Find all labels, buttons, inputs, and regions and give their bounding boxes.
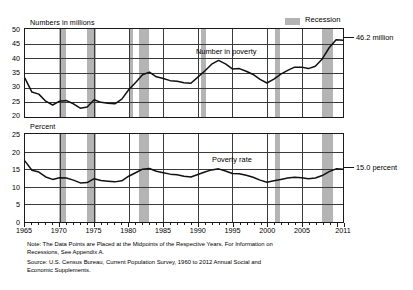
x-axis-tick (205, 223, 206, 225)
xtick-1995: 1995 (220, 226, 246, 235)
top-series-label: Number in poverty (196, 47, 256, 56)
bottom-series-label: Poverty rate (212, 155, 252, 164)
top-ytick-25: 25 (4, 97, 20, 106)
x-axis-tick (240, 223, 241, 225)
x-axis-tick (45, 223, 46, 225)
x-axis-tick (156, 223, 157, 225)
x-axis-tick (226, 223, 227, 225)
x-axis-tick (295, 223, 296, 225)
top-chart-axis-title: Numbers in millions (30, 18, 95, 27)
x-axis-tick (121, 223, 122, 225)
xtick-1985: 1985 (150, 226, 176, 235)
x-axis-tick (149, 223, 150, 225)
bottom-ytick-10: 10 (4, 183, 20, 192)
x-axis-tick (107, 223, 108, 225)
bottom-end-value-label: 15.0 percent (356, 163, 397, 172)
source-line-1: Source: U.S. Census Bureau, Current Popu… (27, 258, 261, 266)
top-callout-leader (344, 37, 354, 38)
xtick-1975: 1975 (81, 226, 107, 235)
x-axis-tick (323, 223, 324, 225)
poverty-chart-figure: Recession Numbers in millions 50 45 40 3… (0, 0, 413, 290)
x-axis-tick (52, 223, 53, 225)
top-end-value-label: 46.2 million (356, 33, 393, 42)
x-axis-tick (31, 223, 32, 225)
x-axis-tick (288, 223, 289, 225)
bottom-ytick-25: 25 (4, 130, 20, 139)
x-axis-tick (330, 223, 331, 225)
bottom-ytick-20: 20 (4, 148, 20, 157)
data-line-number-in-poverty (25, 40, 343, 108)
xtick-2011: 2011 (330, 226, 356, 235)
xtick-1970: 1970 (46, 226, 72, 235)
x-axis-tick (114, 223, 115, 225)
x-axis-tick (274, 223, 275, 225)
x-axis-tick (142, 223, 143, 225)
note-line-2: Recessions, See Appendix A. (27, 248, 104, 256)
top-ytick-30: 30 (4, 82, 20, 91)
bottom-chart-axis-title: Percent (30, 122, 55, 131)
top-chart-plot-area (24, 28, 344, 118)
x-axis-tick (309, 223, 310, 225)
x-axis-tick (261, 223, 262, 225)
xtick-2000: 2000 (254, 226, 280, 235)
xtick-1980: 1980 (115, 226, 141, 235)
note-line-1: Note: The Data Points are Placed at the … (27, 240, 273, 248)
x-axis-tick (101, 223, 102, 225)
x-axis-tick (38, 223, 39, 225)
top-ytick-20: 20 (4, 111, 20, 120)
x-axis-tick (177, 223, 178, 225)
source-line-2: Economic Supplements. (27, 266, 91, 274)
data-line-poverty-rate (25, 161, 343, 183)
xtick-2005: 2005 (289, 226, 315, 235)
x-axis-tick (212, 223, 213, 225)
bottom-ytick-15: 15 (4, 165, 20, 174)
recession-legend-label: Recession (305, 15, 340, 24)
bottom-callout-leader (344, 167, 354, 168)
x-axis-tick (281, 223, 282, 225)
x-axis-tick (191, 223, 192, 225)
top-ytick-50: 50 (4, 25, 20, 34)
top-ytick-40: 40 (4, 54, 20, 63)
xtick-1990: 1990 (185, 226, 211, 235)
series-layer (25, 29, 343, 117)
top-ytick-35: 35 (4, 68, 20, 77)
x-axis-tick (135, 223, 136, 225)
x-axis-tick (184, 223, 185, 225)
x-axis-tick (66, 223, 67, 225)
bottom-chart-plot-area (24, 133, 344, 223)
x-axis-tick (247, 223, 248, 225)
x-axis-tick (87, 223, 88, 225)
x-axis-tick (170, 223, 171, 225)
x-axis-tick (316, 223, 317, 225)
x-axis-tick (73, 223, 74, 225)
top-ytick-45: 45 (4, 39, 20, 48)
bottom-ytick-5: 5 (4, 200, 20, 209)
x-axis-tick (80, 223, 81, 225)
x-axis-tick (219, 223, 220, 225)
series-layer (25, 134, 343, 222)
x-axis-tick (254, 223, 255, 225)
recession-legend-swatch (285, 18, 300, 25)
xtick-1965: 1965 (11, 226, 37, 235)
